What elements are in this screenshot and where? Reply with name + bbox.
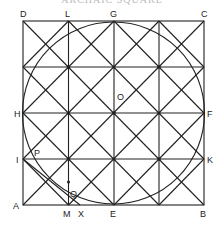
label-c: C xyxy=(201,9,208,19)
label-k: K xyxy=(207,155,213,165)
label-q: Q xyxy=(70,189,77,199)
geometric-diagram: D L G C H O F I P K Q A M X E B xyxy=(0,0,224,235)
label-e: E xyxy=(110,209,116,219)
label-a: A xyxy=(13,201,19,211)
label-p: P xyxy=(34,148,40,158)
label-m: M xyxy=(63,209,71,219)
label-l: L xyxy=(65,9,70,19)
label-f: F xyxy=(207,109,213,119)
label-i: I xyxy=(16,155,19,165)
label-h: H xyxy=(14,109,21,119)
label-d: D xyxy=(20,9,27,19)
label-x: X xyxy=(78,209,84,219)
label-b: B xyxy=(200,209,206,219)
label-o: O xyxy=(117,92,124,102)
label-g: G xyxy=(110,9,117,19)
